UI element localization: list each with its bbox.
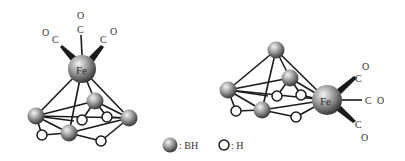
co-c-label: C — [355, 73, 362, 84]
h-atom — [96, 136, 106, 146]
h-atom — [291, 112, 301, 122]
bh-atom — [87, 93, 104, 110]
right-complex: Fe C O C O C O — [220, 42, 385, 144]
legend-h-label: : H — [231, 140, 244, 151]
right-fe-label: Fe — [320, 95, 331, 107]
legend: : BH : H — [163, 138, 244, 153]
legend-bh-icon — [163, 138, 178, 153]
co-o-label: O — [377, 95, 384, 106]
h-atom — [77, 115, 87, 125]
diagram-canvas: Fe O C O C C O — [0, 0, 405, 161]
bh-atom — [220, 82, 237, 99]
h-atom — [272, 91, 282, 101]
co-o-label: O — [77, 10, 84, 21]
co-c-label: C — [100, 34, 107, 45]
h-atom — [102, 112, 112, 122]
co-c-label: C — [52, 34, 59, 45]
h-atom — [37, 130, 47, 140]
bh-atom — [28, 108, 45, 125]
h-atom — [231, 106, 241, 116]
h-atom — [296, 90, 306, 100]
co-o-label: O — [110, 26, 117, 37]
co-o-label: O — [362, 61, 369, 72]
left-fe-label: Fe — [76, 64, 87, 76]
bh-atom — [254, 102, 271, 119]
legend-h-icon — [219, 140, 229, 150]
bh-atom — [282, 70, 299, 87]
bh-atom — [268, 42, 285, 59]
legend-bh-label: : BH — [179, 140, 198, 151]
bh-atom — [61, 125, 78, 142]
co-c-label: C — [355, 119, 362, 130]
left-complex: Fe O C O C C O — [28, 10, 138, 146]
bh-atom — [121, 110, 138, 127]
co-c-label: C — [365, 95, 372, 106]
co-o-label: O — [42, 27, 49, 38]
co-c-label: C — [77, 24, 84, 35]
co-o-label: O — [361, 132, 368, 143]
